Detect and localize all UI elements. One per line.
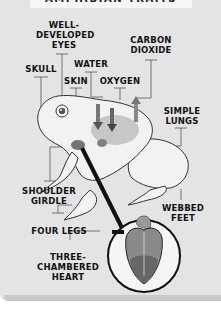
frog-illustration [0, 0, 221, 311]
label-eyes-line2: DEVELOPED [36, 30, 92, 40]
label-skin: SKIN [63, 76, 89, 86]
label-heart-line2: CHAMBERED [36, 262, 100, 272]
heart-magnifier [108, 216, 180, 292]
label-eyes-line1: WELL- [36, 20, 92, 30]
label-skull: SKULL [24, 64, 58, 74]
label-shoulder-line1: SHOULDER [20, 186, 78, 196]
label-lungs-line2: LUNGS [162, 116, 202, 126]
label-eyes: WELL- DEVELOPED EYES [36, 20, 92, 50]
label-heart-line3: HEART [36, 272, 100, 282]
label-carbon-dioxide: CARBON DIOXIDE [126, 35, 176, 55]
label-oxygen: OXYGEN [97, 76, 143, 86]
label-three-chambered-heart: THREE- CHAMBERED HEART [36, 252, 100, 282]
label-heart-line1: THREE- [36, 252, 100, 262]
label-shoulder-line2: GIRDLE [20, 196, 78, 206]
label-co2-line2: DIOXIDE [126, 45, 176, 55]
label-lungs-line1: SIMPLE [162, 106, 202, 116]
label-shoulder-girdle: SHOULDER GIRDLE [20, 186, 78, 206]
label-co2-line1: CARBON [126, 35, 176, 45]
label-feet-line2: FEET [160, 213, 206, 223]
label-water: WATER [74, 59, 108, 69]
label-webbed-feet: WEBBED FEET [160, 203, 206, 223]
label-simple-lungs: SIMPLE LUNGS [162, 106, 202, 126]
label-four-legs: FOUR LEGS [28, 226, 90, 236]
label-eyes-line3: EYES [36, 40, 92, 50]
label-feet-line1: WEBBED [160, 203, 206, 213]
